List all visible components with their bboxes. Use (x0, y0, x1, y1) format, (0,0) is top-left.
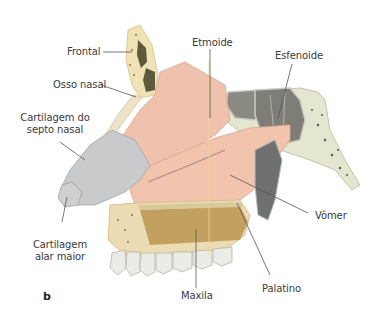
maxilla-palate (140, 206, 248, 245)
label-esfenoide: Esfenoide (275, 50, 323, 62)
label-etmoide: Etmoide (192, 37, 233, 49)
label-cartilagem-alar-line2: alar maior (30, 251, 90, 263)
nasal-septum-diagram: Frontal Osso nasal Cartilagem do septo n… (0, 0, 387, 320)
pterygoid-plate (255, 140, 282, 220)
label-osso-nasal: Osso nasal (53, 79, 106, 91)
label-palatino: Palatino (262, 283, 301, 295)
label-maxila: Maxila (181, 290, 213, 302)
label-cartilagem-septo-line2: septo nasal (20, 124, 90, 136)
label-vomer: Vômer (315, 210, 347, 222)
label-cartilagem-septo-line1: Cartilagem do (20, 112, 90, 124)
label-cartilagem-alar-line1: Cartilagem (30, 239, 90, 251)
label-frontal: Frontal (67, 46, 101, 58)
panel-letter: b (43, 290, 51, 303)
